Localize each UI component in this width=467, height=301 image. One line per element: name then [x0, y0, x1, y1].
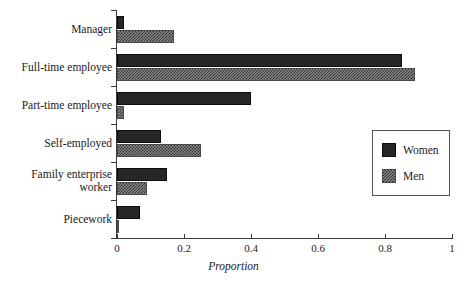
plot-area	[117, 10, 452, 238]
x-axis-line	[116, 238, 452, 239]
bar-men-3	[117, 106, 124, 119]
bar-women-1	[117, 16, 124, 29]
bar-women-2	[117, 54, 402, 67]
legend-swatch-men-icon	[382, 169, 396, 183]
x-tick-label-1: 0	[97, 242, 137, 254]
category-label-6: Piecework	[0, 213, 112, 226]
bar-women-3	[117, 92, 251, 105]
category-label-5: Family enterprise worker	[17, 168, 112, 194]
chart-legend: Women Men	[372, 130, 450, 196]
category-label-2: Full-time employee	[0, 61, 112, 74]
bar-women-5	[117, 168, 167, 181]
bar-men-6	[117, 220, 119, 233]
x-tick-label-2: 0.2	[164, 242, 204, 254]
x-tick-label-6: 1	[432, 242, 467, 254]
x-axis-title: Proportion	[0, 260, 467, 272]
x-tick-label-5: 0.8	[365, 242, 405, 254]
x-tick-6	[452, 234, 453, 239]
x-tick-label-4: 0.6	[298, 242, 338, 254]
legend-label-women: Women	[403, 144, 438, 157]
bar-women-6	[117, 206, 140, 219]
legend-item-men: Men	[382, 169, 424, 183]
category-label-1: Manager	[0, 23, 112, 36]
bar-men-2	[117, 68, 415, 81]
bar-men-5	[117, 182, 147, 195]
x-tick-label-3: 0.4	[231, 242, 271, 254]
bar-chart: 00.20.40.60.81 ManagerFull-time employee…	[0, 0, 467, 301]
legend-swatch-women-icon	[382, 143, 396, 157]
category-label-3: Part-time employee	[0, 99, 112, 112]
legend-label-men: Men	[403, 170, 424, 183]
bar-women-4	[117, 130, 161, 143]
legend-item-women: Women	[382, 143, 438, 157]
bar-men-4	[117, 144, 201, 157]
bar-men-1	[117, 30, 174, 43]
category-label-4: Self-employed	[0, 137, 112, 150]
